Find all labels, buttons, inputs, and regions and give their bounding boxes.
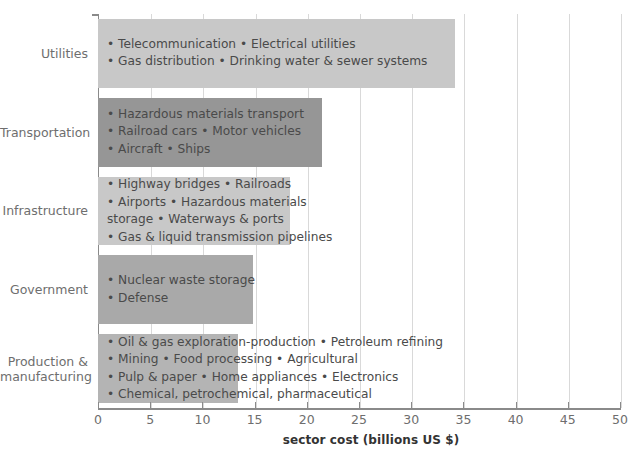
category-label: Utilities [0, 19, 88, 88]
x-tick-label: 0 [78, 412, 118, 427]
x-axis-title: sector cost (billions US $) [0, 433, 644, 447]
x-tick [568, 402, 569, 409]
x-tick [411, 402, 412, 409]
category-label: Infrastructure [0, 177, 88, 246]
bar[interactable]: • Highway bridges • Railroads• Airports … [98, 177, 290, 246]
category-label-line: manufacturing [0, 369, 88, 384]
bar-annotation-line: • Nuclear waste storage [107, 272, 249, 290]
x-tick [255, 402, 256, 409]
bar-annotation-line: storage • Waterways & ports [107, 211, 286, 229]
x-tick [202, 402, 203, 409]
category-label-line: Production & [0, 354, 88, 369]
bar-annotation-line: • Gas & liquid transmission pipelines [107, 229, 286, 247]
bar[interactable]: • Telecommunication • Electrical utiliti… [98, 19, 455, 88]
bar[interactable]: • Nuclear waste storage• Defense [98, 255, 253, 324]
gridline [464, 14, 465, 408]
bar-annotation-line: • Railroad cars • Motor vehicles [107, 123, 318, 141]
bar-annotation-line: • Airports • Hazardous materials [107, 194, 286, 212]
x-tick-label: 5 [130, 412, 170, 427]
category-label-line: Utilities [0, 46, 88, 61]
x-tick-label: 15 [235, 412, 275, 427]
x-tick-label: 20 [287, 412, 327, 427]
bar-annotation-line: • Telecommunication • Electrical utiliti… [107, 36, 451, 54]
gridline [621, 14, 622, 408]
bar-chart: • Telecommunication • Electrical utiliti… [0, 0, 644, 458]
category-label: Transportation [0, 98, 88, 167]
gridline [517, 14, 518, 408]
x-tick-label: 50 [600, 412, 640, 427]
x-tick-label: 40 [496, 412, 536, 427]
y-axis-top-tick [92, 14, 99, 16]
category-label-line: Government [0, 282, 88, 297]
bar-annotation-line: • Defense [107, 290, 249, 308]
bar[interactable]: • Hazardous materials transport• Railroa… [98, 98, 322, 167]
bar-annotation-line: • Oil & gas exploration-production • Pet… [107, 334, 234, 352]
category-label: Production &manufacturing [0, 334, 88, 403]
category-label: Government [0, 255, 88, 324]
bar-annotation-line: • Chemical, petrochemical, pharmaceutica… [107, 386, 234, 404]
bar-annotation-line: • Highway bridges • Railroads [107, 176, 286, 194]
bar-annotation-line: • Gas distribution • Drinking water & se… [107, 53, 451, 71]
bar[interactable]: • Oil & gas exploration-production • Pet… [98, 334, 238, 403]
x-tick [620, 402, 621, 409]
x-tick [150, 402, 151, 409]
x-tick-label: 45 [548, 412, 588, 427]
x-tick-label: 35 [443, 412, 483, 427]
bar-annotation-line: • Pulp & paper • Home appliances • Elect… [107, 369, 234, 387]
category-label-line: Transportation [0, 125, 88, 140]
x-tick [307, 402, 308, 409]
x-tick [359, 402, 360, 409]
x-tick-label: 30 [391, 412, 431, 427]
x-tick [463, 402, 464, 409]
x-tick [516, 402, 517, 409]
x-tick-label: 10 [182, 412, 222, 427]
x-tick-label: 25 [339, 412, 379, 427]
bar-annotation-line: • Aircraft • Ships [107, 141, 318, 159]
x-tick [98, 402, 99, 409]
bar-annotation-line: • Hazardous materials transport [107, 106, 318, 124]
bar-annotation-line: • Mining • Food processing • Agricultura… [107, 351, 234, 369]
category-label-line: Infrastructure [0, 203, 88, 218]
gridline [569, 14, 570, 408]
